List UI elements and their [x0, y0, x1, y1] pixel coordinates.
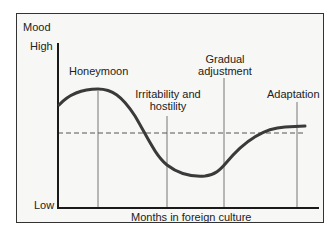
y-low-label: Low: [34, 199, 54, 211]
stage-label-gradual-line2: adjustment: [189, 65, 261, 77]
stage-label-adaptation: Adaptation: [267, 88, 320, 100]
stage-label-honeymoon: Honeymoon: [69, 65, 128, 77]
x-axis-label: Months in foreign culture: [131, 211, 251, 223]
stage-label-irritability: Irritability and hostility: [132, 88, 204, 112]
stage-label-gradual-line1: Gradual: [189, 53, 261, 65]
y-axis-title: Mood: [23, 21, 51, 33]
stage-label-irritability-line2: hostility: [132, 100, 204, 112]
y-high-label: High: [30, 40, 53, 52]
stage-label-irritability-line1: Irritability and: [132, 88, 204, 100]
stage-label-gradual-adjustment: Gradual adjustment: [189, 53, 261, 77]
